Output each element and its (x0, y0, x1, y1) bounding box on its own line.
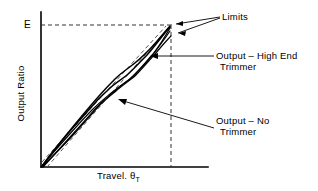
no-trimmer-leader (120, 100, 214, 128)
y-axis-tick-label-e: E (24, 19, 31, 30)
annotation-no-trimmer-label: Output – NoTrimmer (216, 115, 269, 137)
x-axis-label: Travel. θT (97, 170, 140, 185)
curve-output-upper (42, 26, 170, 166)
figure-container: Limits Output – High EndTrimmer Output –… (0, 0, 318, 191)
x-axis-label-main: Travel. θ (97, 170, 135, 181)
annotation-high-end-trimmer-label: Output – High EndTrimmer (216, 50, 298, 72)
x-axis-label-subscript: T (135, 176, 139, 183)
annotation-high-end-trimmer-line2: Trimmer (216, 61, 298, 72)
no-trimmer-arrowhead (118, 99, 127, 105)
annotation-limits-label: Limits (222, 11, 248, 22)
y-axis-label: Output Ratio (15, 51, 26, 137)
annotation-high-end-trimmer-line1: Output – High End (216, 50, 298, 61)
annotation-no-trimmer-line2: Trimmer (216, 126, 269, 137)
annotation-no-trimmer-line1: Output – No (216, 115, 269, 126)
chart-plot-area (0, 0, 318, 191)
